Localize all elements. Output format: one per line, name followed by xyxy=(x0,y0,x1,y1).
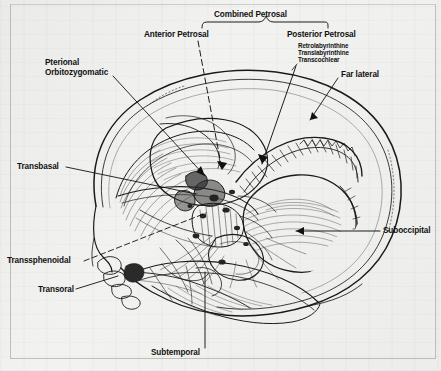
label-pterional: Pterional xyxy=(45,58,79,68)
label-suboccipital: Suboccipital xyxy=(383,226,430,236)
label-transcochlear: Transcochlear xyxy=(298,56,339,63)
label-transsphenoidal: Transsphenoidal xyxy=(7,256,71,266)
label-subtemporal: Subtemporal xyxy=(151,348,200,358)
label-combined-petrosal: Combined Petrosal xyxy=(214,10,287,20)
skull-illustration xyxy=(0,0,441,371)
label-transbasal: Transbasal xyxy=(17,162,59,172)
label-posterior-petrosal: Posterior Petrosal xyxy=(287,30,356,40)
figure-container: Combined Petrosal Anterior Petrosal Post… xyxy=(0,0,441,371)
label-anterior-petrosal: Anterior Petrosal xyxy=(144,30,209,40)
label-far-lateral: Far lateral xyxy=(341,70,379,80)
label-orbitozygomatic: Orbitozygomatic xyxy=(45,68,108,78)
label-transoral: Transoral xyxy=(38,285,74,295)
